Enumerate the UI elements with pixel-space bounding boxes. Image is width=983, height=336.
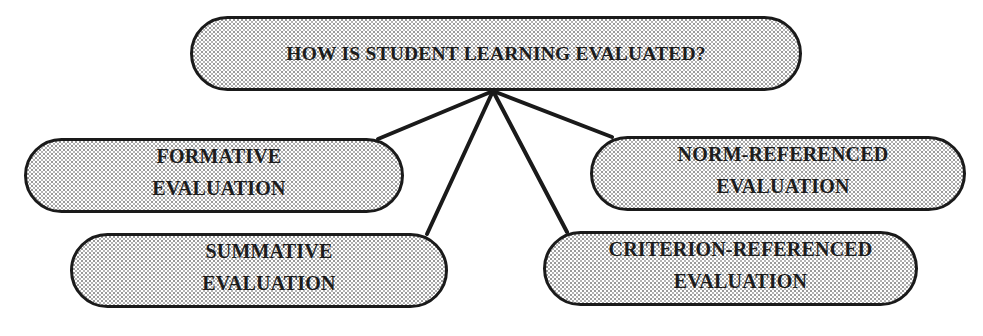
formative-evaluation-node: FORMATIVE EVALUATION [24, 138, 404, 213]
diagram-canvas: HOW IS STUDENT LEARNING EVALUATED? FORMA… [0, 0, 983, 336]
connector-norm-referenced [493, 91, 612, 137]
root-label: HOW IS STUDENT LEARNING EVALUATED? [286, 44, 705, 64]
node-label-line-2: EVALUATION [716, 176, 850, 196]
node-label-line-1: CRITERION-REFERENCED [608, 239, 872, 259]
connector-criterion-referenced [493, 91, 567, 232]
node-label-line-2: EVALUATION [152, 178, 286, 198]
node-label-line-1: SUMMATIVE [206, 241, 333, 261]
norm-referenced-evaluation-node: NORM-REFERENCED EVALUATION [590, 136, 966, 211]
summative-evaluation-node: SUMMATIVE EVALUATION [70, 233, 448, 308]
criterion-referenced-evaluation-node: CRITERION-REFERENCED EVALUATION [543, 231, 918, 306]
node-label-line-2: EVALUATION [202, 273, 336, 293]
node-label-line-1: NORM-REFERENCED [678, 144, 889, 164]
node-label-line-2: EVALUATION [674, 271, 808, 291]
node-label-line-1: FORMATIVE [157, 146, 282, 166]
root-node: HOW IS STUDENT LEARNING EVALUATED? [190, 16, 802, 91]
